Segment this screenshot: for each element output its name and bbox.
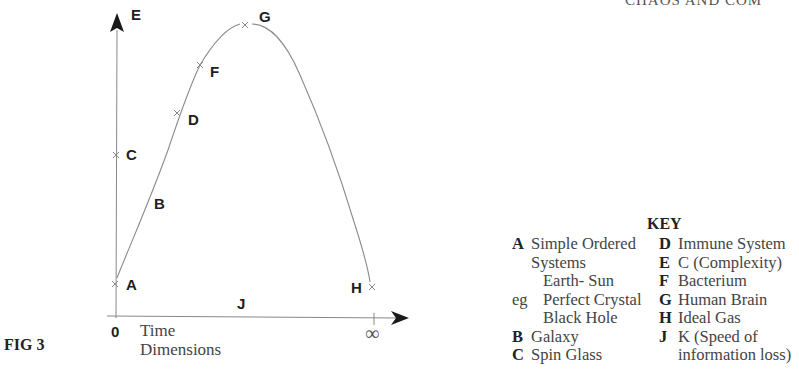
key-text: Spin Glass xyxy=(531,346,602,365)
key-entry-h: H Ideal Gas xyxy=(659,309,799,328)
key-entry-a-cont: Systems xyxy=(512,254,652,273)
point-label-c: C xyxy=(126,147,137,162)
y-axis-label: E xyxy=(131,7,141,22)
key-letter: H xyxy=(659,309,672,328)
key-entry-example-1: Earth- Sun xyxy=(512,272,652,291)
key-text: Systems xyxy=(531,254,586,273)
key-left-column: A Simple Ordered Systems Earth- Sun eg P… xyxy=(512,235,652,365)
key-text: Galaxy xyxy=(531,328,579,347)
cross-icon-g xyxy=(242,22,248,28)
point-label-a: A xyxy=(126,277,137,292)
y-axis-arrow-icon xyxy=(110,13,124,32)
key-entry-j-cont: information loss) xyxy=(659,346,799,365)
key-entry-g: G Human Brain xyxy=(659,291,799,310)
cross-icon-f xyxy=(197,62,203,68)
x-end-infinity-label: ∞ xyxy=(365,322,379,345)
key-letter: J xyxy=(659,328,667,347)
figure-label: FIG 3 xyxy=(4,336,44,354)
key-letter: A xyxy=(512,235,524,254)
x-axis-caption-time: Time xyxy=(140,321,175,341)
key-entry-example-2: eg Perfect Crystal xyxy=(512,291,652,310)
x-axis-label: J xyxy=(237,296,245,311)
key-letter: G xyxy=(659,291,672,310)
point-label-b: B xyxy=(154,196,165,211)
cross-icon-a xyxy=(112,281,118,287)
key-text: K (Speed of xyxy=(678,328,758,347)
point-label-h: H xyxy=(351,280,362,295)
cross-icon-c xyxy=(113,152,119,158)
key-text: Perfect Crystal xyxy=(543,291,642,310)
point-label-d: D xyxy=(188,112,199,127)
key-entry-b: B Galaxy xyxy=(512,328,652,347)
key-eg-label: eg xyxy=(512,291,528,310)
key-letter: E xyxy=(659,254,670,273)
key-text: C (Complexity) xyxy=(678,254,782,273)
complexity-curve xyxy=(117,24,370,282)
x-axis xyxy=(107,316,398,318)
key-text: Simple Ordered xyxy=(531,235,636,254)
point-label-g: G xyxy=(259,9,271,24)
key-text: Black Hole xyxy=(543,309,618,328)
key-entry-j: J K (Speed of xyxy=(659,328,799,347)
key-entry-a: A Simple Ordered xyxy=(512,235,652,254)
key-text: Earth- Sun xyxy=(543,272,614,291)
key-letter: C xyxy=(512,346,524,365)
point-markers xyxy=(112,22,375,290)
cross-icon-h xyxy=(369,284,375,290)
y-axis xyxy=(116,30,117,318)
cross-icon-d xyxy=(174,110,180,116)
key-title: KEY xyxy=(647,215,682,233)
key-letter: D xyxy=(659,235,671,254)
key-text: Immune System xyxy=(678,235,786,254)
key-entry-f: F Bacterium xyxy=(659,272,799,291)
point-label-f: F xyxy=(210,64,219,79)
x-axis-caption-dimensions: Dimensions xyxy=(140,340,221,360)
key-text: Ideal Gas xyxy=(678,309,741,328)
key-right-column: D Immune System E C (Complexity) F Bacte… xyxy=(659,235,799,365)
key-text: Human Brain xyxy=(678,291,767,310)
key-letter: B xyxy=(512,328,523,347)
key-entry-d: D Immune System xyxy=(659,235,799,254)
x-origin-label: 0 xyxy=(111,324,119,339)
key-letter: F xyxy=(659,272,669,291)
key-text: Bacterium xyxy=(678,272,747,291)
key-text: information loss) xyxy=(678,346,791,365)
key-entry-c: C Spin Glass xyxy=(512,346,652,365)
key-entry-e: E C (Complexity) xyxy=(659,254,799,273)
key-entry-example-3: Black Hole xyxy=(512,309,652,328)
